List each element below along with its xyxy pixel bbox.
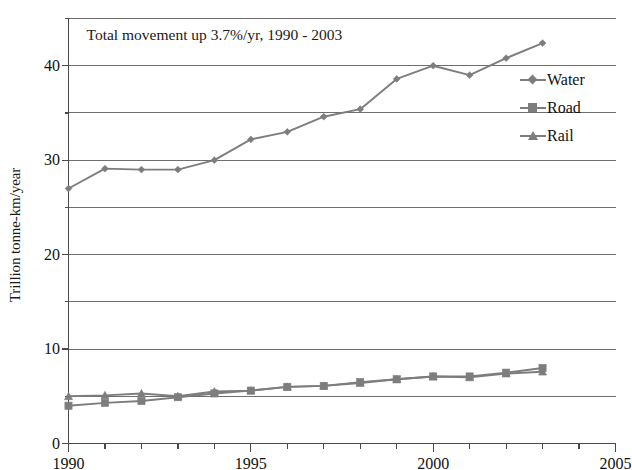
chart-legend: Water Road Rail bbox=[520, 70, 585, 146]
legend-label-water: Water bbox=[547, 71, 585, 89]
y-tick-label: 10 bbox=[20, 340, 60, 358]
y-tick-label: 40 bbox=[20, 57, 60, 75]
y-tick-label: 30 bbox=[20, 151, 60, 169]
y-tick-label: 0 bbox=[20, 435, 60, 453]
y-tick-label: 20 bbox=[20, 246, 60, 264]
legend-item-water[interactable]: Water bbox=[520, 70, 585, 90]
x-tick-label: 1995 bbox=[235, 455, 267, 470]
legend-item-rail[interactable]: Rail bbox=[520, 126, 585, 146]
x-tick-label: 2000 bbox=[417, 455, 449, 470]
legend-item-road[interactable]: Road bbox=[520, 98, 585, 118]
legend-label-road: Road bbox=[547, 99, 581, 117]
x-tick-label: 2005 bbox=[600, 455, 632, 470]
water-marker-icon bbox=[520, 73, 546, 87]
x-tick-label: 1990 bbox=[53, 455, 85, 470]
road-marker-icon bbox=[520, 101, 546, 115]
legend-label-rail: Rail bbox=[547, 127, 574, 145]
rail-marker-icon bbox=[520, 129, 546, 143]
chart-annotation: Total movement up 3.7%/yr, 1990 - 2003 bbox=[87, 26, 343, 44]
